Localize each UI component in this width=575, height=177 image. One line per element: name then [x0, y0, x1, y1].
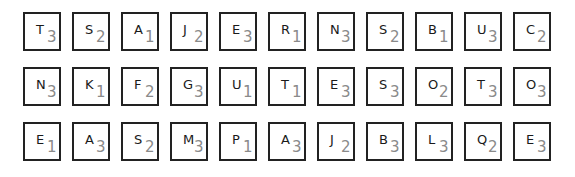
tile-score: 2	[341, 140, 351, 155]
letter-tile[interactable]: J2	[170, 12, 208, 51]
tile-score: 2	[145, 140, 155, 155]
tile-score: 2	[488, 140, 498, 155]
tile-letter: U	[477, 23, 487, 36]
letter-tile[interactable]: U1	[219, 67, 257, 106]
tile-letter: J	[330, 133, 334, 146]
letter-tile[interactable]: F2	[121, 67, 159, 106]
tile-score: 1	[243, 85, 253, 100]
tile-score: 3	[292, 140, 302, 155]
letter-tile[interactable]: O2	[415, 67, 453, 106]
letter-tile[interactable]: Q2	[464, 122, 502, 161]
tile-letter: T	[477, 78, 485, 91]
tile-score: 1	[292, 30, 302, 45]
tile-letter: P	[232, 133, 240, 146]
tile-letter: C	[526, 23, 535, 36]
tile-letter: T	[36, 23, 44, 36]
letter-tile[interactable]: C2	[513, 12, 551, 51]
letter-tile[interactable]: T1	[268, 67, 306, 106]
letter-tile[interactable]: A3	[72, 122, 110, 161]
tile-score: 3	[194, 140, 204, 155]
letter-tile[interactable]: S3	[366, 67, 404, 106]
tile-score: 2	[537, 30, 547, 45]
tile-score: 3	[488, 30, 498, 45]
letter-tile[interactable]: B1	[415, 12, 453, 51]
tile-letter: A	[281, 133, 290, 146]
tile-letter: J	[183, 23, 187, 36]
tile-score: 3	[341, 30, 351, 45]
tile-letter: A	[85, 133, 94, 146]
tile-letter: S	[379, 23, 387, 36]
letter-tile[interactable]: E3	[219, 12, 257, 51]
tile-letter: E	[330, 78, 338, 91]
tile-score: 3	[390, 85, 400, 100]
tile-letter: B	[379, 133, 388, 146]
tile-letter: T	[281, 78, 289, 91]
tile-row-3: E1 A3 S2 M3 P1 A3 J2 B3 L3 Q2 E3	[23, 122, 551, 161]
tile-letter: O	[428, 78, 438, 91]
tile-score: 2	[145, 85, 155, 100]
letter-tile[interactable]: S2	[72, 12, 110, 51]
tile-letter: E	[36, 133, 44, 146]
letter-tile[interactable]: N3	[317, 12, 355, 51]
tile-score: 1	[96, 85, 106, 100]
tile-score: 3	[439, 140, 449, 155]
tile-letter: E	[526, 133, 534, 146]
tile-letter: K	[85, 78, 94, 91]
letter-tile[interactable]: B3	[366, 122, 404, 161]
tile-letter: N	[36, 78, 46, 91]
tile-letter: O	[526, 78, 536, 91]
tile-score: 3	[488, 85, 498, 100]
tile-score: 1	[439, 30, 449, 45]
tile-letter: E	[232, 23, 240, 36]
letter-tile[interactable]: O3	[513, 67, 551, 106]
letter-tile[interactable]: R1	[268, 12, 306, 51]
letter-tile[interactable]: K1	[72, 67, 110, 106]
tile-letter: G	[183, 78, 193, 91]
tile-letter: N	[330, 23, 340, 36]
tile-letter: L	[428, 133, 435, 146]
tile-score: 1	[292, 85, 302, 100]
tile-score: 1	[145, 30, 155, 45]
tile-letter: S	[379, 78, 387, 91]
letter-tile[interactable]: N3	[23, 67, 61, 106]
letter-tile[interactable]: T3	[23, 12, 61, 51]
tile-letter: Q	[477, 133, 487, 146]
tile-letter: S	[134, 133, 142, 146]
tile-letter: U	[232, 78, 242, 91]
letter-tile[interactable]: G3	[170, 67, 208, 106]
tile-score: 3	[537, 140, 547, 155]
tile-score: 2	[439, 85, 449, 100]
tile-letter: B	[428, 23, 437, 36]
tile-row-2: N3 K1 F2 G3 U1 T1 E3 S3 O2 T3 O3	[23, 67, 551, 106]
tile-score: 3	[47, 30, 57, 45]
tile-letter: A	[134, 23, 143, 36]
tile-score: 2	[194, 30, 204, 45]
tile-score: 2	[390, 30, 400, 45]
tile-letter: F	[134, 78, 141, 91]
tile-score: 1	[47, 140, 57, 155]
letter-tile[interactable]: M3	[170, 122, 208, 161]
letter-tile[interactable]: A1	[121, 12, 159, 51]
letter-tile[interactable]: P1	[219, 122, 257, 161]
tile-score: 3	[194, 85, 204, 100]
tile-letter: R	[281, 23, 290, 36]
letter-tile[interactable]: S2	[366, 12, 404, 51]
letter-tile[interactable]: J2	[317, 122, 355, 161]
tile-letter: S	[85, 23, 93, 36]
tile-score: 1	[243, 140, 253, 155]
letter-tile[interactable]: T3	[464, 67, 502, 106]
tile-letter: M	[183, 133, 194, 146]
letter-tile[interactable]: A3	[268, 122, 306, 161]
letter-tile[interactable]: L3	[415, 122, 453, 161]
tile-score: 3	[243, 30, 253, 45]
letter-tile[interactable]: E3	[513, 122, 551, 161]
letter-tile[interactable]: S2	[121, 122, 159, 161]
letter-tile[interactable]: E1	[23, 122, 61, 161]
letter-tile[interactable]: E3	[317, 67, 355, 106]
tile-score: 3	[341, 85, 351, 100]
tile-score: 3	[47, 85, 57, 100]
letter-tile[interactable]: U3	[464, 12, 502, 51]
tile-score: 2	[96, 30, 106, 45]
tile-score: 3	[390, 140, 400, 155]
tile-score: 3	[96, 140, 106, 155]
